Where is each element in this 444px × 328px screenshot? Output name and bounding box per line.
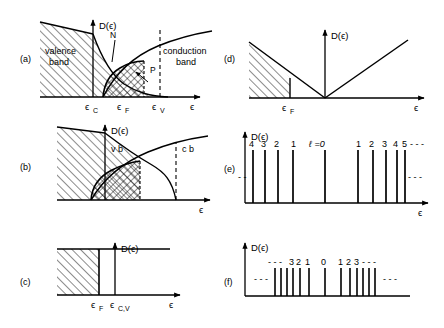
- panel-e-label-right-2: 2: [369, 139, 374, 149]
- panel-e-label-right-5: 5: [402, 139, 407, 149]
- panel-f-label: (f): [224, 277, 233, 287]
- panel-f-right-3: 3: [354, 257, 359, 267]
- panel-f-left-continuation: - - -: [268, 257, 282, 267]
- dos-figure: (a) N P valence band conduction band: [0, 0, 444, 328]
- panel-e-continuation-top-right: - - -: [410, 139, 424, 149]
- panel-d-y-axis-label: D(ϵ): [331, 30, 348, 41]
- conduction-band-label-line2: band: [176, 57, 196, 67]
- panel-a-label: (a): [20, 54, 31, 64]
- panel-f-right-1: 1: [338, 257, 343, 267]
- n-label: N: [110, 30, 116, 40]
- valence-band-label-line1: valence: [45, 46, 76, 56]
- panel-b-label: (b): [20, 162, 31, 172]
- valence-band-short-label: v b: [111, 144, 123, 154]
- panel-f-left-2: 2: [296, 257, 301, 267]
- panel-e-label-left-2: 2: [274, 139, 279, 149]
- figure-root: (a) N P valence band conduction band: [0, 0, 444, 328]
- p-label: P: [150, 65, 156, 75]
- panel-e-level-index-label: ℓ =0: [308, 139, 325, 149]
- panel-d-tick-epsF-sub: F: [290, 108, 294, 115]
- panel-b-x-axis-label: ϵ: [199, 204, 203, 215]
- panel-f-continuation-left: - - -: [254, 274, 268, 284]
- panel-a-tick-epsV-sub: V: [160, 107, 165, 114]
- panel-a-tick-epsC-sub: C: [93, 107, 98, 114]
- panel-c-hatch: [57, 249, 99, 295]
- panel-c-tick-epsCV-sub: C,V: [118, 305, 130, 312]
- panel-c-tick-epsF-sub: F: [99, 305, 103, 312]
- panel-c-x-axis-label: ϵ: [169, 299, 173, 310]
- panel-a-tick-epsC-base: ϵ: [85, 101, 89, 112]
- panel-a-tick-epsV-base: ϵ: [152, 101, 156, 112]
- panel-f-y-axis-label: D(ϵ): [251, 242, 268, 253]
- panel-d-tick-epsF-base: ϵ: [282, 102, 286, 113]
- panel-f-right-2: 2: [346, 257, 351, 267]
- conduction-band-label-line1: conduction: [163, 46, 207, 56]
- conduction-band-short-label: c b: [182, 144, 194, 154]
- panel-e-label: (e): [224, 164, 235, 174]
- panel-e-x-axis-label: ϵ: [418, 207, 422, 218]
- panel-e-label-left-4: 4: [249, 139, 254, 149]
- panel-f-continuation-right: - - -: [383, 274, 397, 284]
- panel-e-continuation-right: - - -: [408, 172, 422, 182]
- panel-c-tick-epsF-base: ϵ: [91, 299, 95, 310]
- panel-f-center-0: 0: [321, 257, 326, 267]
- valence-band-label-line2: band: [49, 57, 69, 67]
- panel-d-x-axis-label: ϵ: [414, 102, 418, 113]
- panel-e-label-right-3: 3: [382, 139, 387, 149]
- panel-c-label: (c): [20, 277, 31, 287]
- panel-b-y-axis-label: D(ϵ): [111, 125, 128, 136]
- panel-f-left-3: 3: [289, 257, 294, 267]
- panel-a-tick-epsF-base: ϵ: [117, 101, 121, 112]
- panel-f-left-1: 1: [305, 257, 310, 267]
- panel-e-label-right-4: 4: [393, 139, 398, 149]
- panel-e-label-left-1: 1: [291, 139, 296, 149]
- panel-f-right-continuation: - - -: [362, 257, 376, 267]
- panel-e-label-right-1: 1: [356, 139, 361, 149]
- panel-e-label-left-3: 3: [261, 139, 266, 149]
- panel-a-y-axis-label: D(ϵ): [99, 20, 116, 31]
- panel-c-tick-epsCV-base: ϵ: [110, 299, 114, 310]
- panel-a-x-axis-label: ϵ: [190, 101, 194, 112]
- panel-a-tick-epsF-sub: F: [125, 107, 129, 114]
- panel-d-label: (d): [224, 54, 235, 64]
- panel-e-continuation-left: - -: [238, 172, 247, 182]
- panel-c-y-axis-label: D(ϵ): [121, 243, 138, 254]
